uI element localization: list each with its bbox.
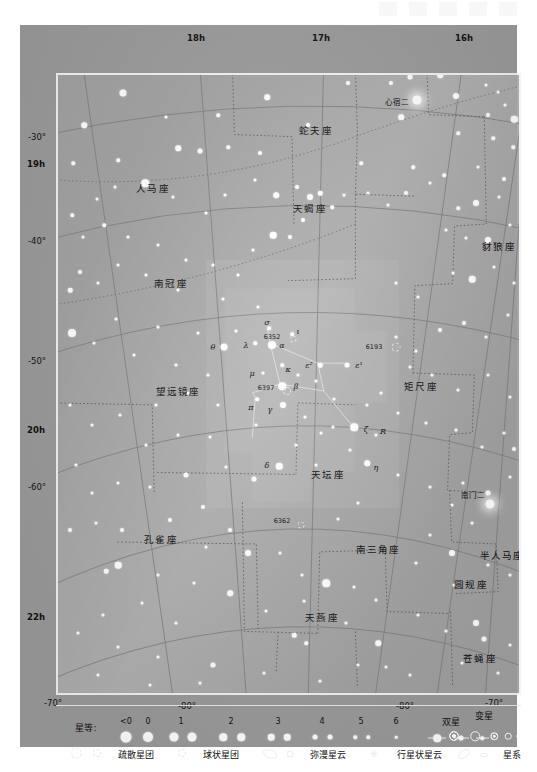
star xyxy=(157,326,160,329)
star xyxy=(168,518,172,522)
star xyxy=(469,276,476,283)
star xyxy=(397,474,400,477)
star xyxy=(512,447,516,451)
star-ara-pi xyxy=(255,397,259,401)
star xyxy=(429,182,432,185)
dec-tick-left-60: -60° xyxy=(28,482,46,492)
star xyxy=(225,466,228,469)
star xyxy=(157,244,160,247)
constellation-label-centaurus: 半人马座 xyxy=(480,548,519,562)
star xyxy=(353,586,356,589)
legend-globular-cluster-label: 球状星团 xyxy=(203,748,239,761)
greek-label-pi: π xyxy=(248,403,253,412)
legend-magnitude-title: 星等: xyxy=(75,721,96,734)
star xyxy=(375,599,378,602)
legend-variable-star-glyph-4 xyxy=(505,733,512,740)
star xyxy=(205,546,208,549)
legend-double-star-dot-mid xyxy=(459,736,464,741)
legend-mag-5-dot-a xyxy=(353,735,357,739)
dso-label-6362: 6362 xyxy=(274,517,291,525)
star xyxy=(451,504,454,507)
star xyxy=(509,396,512,399)
star xyxy=(485,84,488,87)
legend-galaxy-glyph-a xyxy=(456,747,471,761)
star xyxy=(165,116,168,119)
star xyxy=(477,166,480,169)
star-ara-mu xyxy=(262,372,265,375)
legend-mag-0-dot xyxy=(143,732,153,742)
legend-mag-lt0-label: <0 xyxy=(120,717,132,726)
star xyxy=(227,590,233,596)
star xyxy=(389,81,393,85)
star xyxy=(237,274,240,277)
star xyxy=(417,296,420,299)
star xyxy=(397,412,400,415)
star xyxy=(425,422,428,425)
star xyxy=(145,274,148,277)
star xyxy=(209,436,212,439)
constellation-label-scorpius: 天蝎座 xyxy=(293,201,327,215)
star xyxy=(385,666,388,669)
star xyxy=(357,502,360,505)
star xyxy=(184,473,189,478)
star xyxy=(345,622,348,625)
star xyxy=(367,192,370,195)
star xyxy=(411,165,415,169)
globular-cluster-6362-glyph xyxy=(298,522,305,529)
greek-label-lambda: λ xyxy=(243,341,248,350)
star xyxy=(359,161,363,165)
legend-mag-4-dot-a xyxy=(313,735,318,740)
legend-variable-star-label: 变星 xyxy=(475,709,493,722)
greek-label-epsilon-1: ε¹ xyxy=(355,361,363,370)
star xyxy=(68,288,73,293)
star xyxy=(133,354,136,357)
star xyxy=(453,93,459,99)
star xyxy=(201,505,205,509)
star xyxy=(322,579,330,587)
star-ara-eta xyxy=(364,460,370,466)
star xyxy=(264,94,270,100)
star xyxy=(149,486,152,489)
star xyxy=(288,235,292,239)
legend-mag-5-dot-b xyxy=(366,735,370,739)
sky-frame: 蛇夫座 人马座 天蝎座 豺狼座 南冠座 矩尺座 望远镜座 天坛座 孔雀座 南三角… xyxy=(56,73,521,695)
star xyxy=(224,194,227,197)
constellation-label-apus: 天燕座 xyxy=(305,610,339,624)
star xyxy=(509,476,512,479)
star-ara-lambda xyxy=(253,341,257,345)
star xyxy=(279,552,282,555)
star xyxy=(429,486,432,489)
star xyxy=(120,90,127,97)
star xyxy=(104,569,109,574)
star xyxy=(71,161,75,165)
star xyxy=(457,389,460,392)
star xyxy=(404,191,408,195)
star xyxy=(301,574,304,577)
star xyxy=(503,432,506,435)
legend-galaxy-label: 星系 xyxy=(503,748,521,761)
star xyxy=(197,332,200,335)
star xyxy=(175,145,181,151)
constellation-label-ophiuchus: 蛇夫座 xyxy=(299,123,333,137)
star xyxy=(513,282,516,285)
greek-label-iota: ι xyxy=(296,327,299,336)
legend-diffuse-nebula-glyph-b xyxy=(287,751,293,757)
star xyxy=(141,602,144,605)
legend-mag-lt0-dot xyxy=(121,732,132,743)
star xyxy=(487,564,490,567)
star xyxy=(409,366,412,369)
star xyxy=(471,522,474,525)
greek-label-sigma: σ xyxy=(264,318,269,327)
constellation-label-circinus: 圆规座 xyxy=(454,577,488,591)
star-ara-eps1 xyxy=(345,363,350,368)
greek-label-kappa: κ xyxy=(285,365,290,374)
star xyxy=(409,674,412,677)
dec-tick-bottom-70-left: -70° xyxy=(44,698,62,708)
star xyxy=(452,272,455,275)
legend-mag-5-label: 5 xyxy=(358,717,363,726)
globular-cluster-6352-glyph xyxy=(290,336,297,343)
star xyxy=(498,196,501,199)
star xyxy=(205,212,208,215)
star xyxy=(507,314,510,317)
star xyxy=(185,259,188,262)
